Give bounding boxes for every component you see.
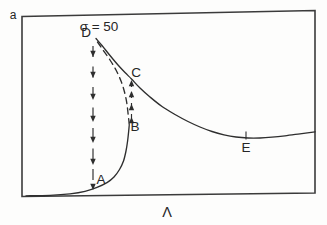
down-arrowhead-icon xyxy=(90,116,95,122)
point-label-b: B xyxy=(130,119,139,134)
down-arrowhead-icon xyxy=(90,72,95,78)
jump-arrow-b-to-c xyxy=(129,80,134,123)
jump-arrow-d-to-a xyxy=(90,46,95,190)
figure-container: a Λ σ = 50 A B C D E xyxy=(0,0,327,225)
down-arrowhead-icon xyxy=(90,51,95,57)
point-label-d: D xyxy=(81,25,91,40)
y-axis-label: a xyxy=(10,8,17,22)
down-arrowhead-icon xyxy=(90,137,95,143)
down-arrowhead-icon xyxy=(90,94,95,100)
curve-lower-stable-branch xyxy=(26,126,129,196)
bifurcation-plot: a Λ σ = 50 A B C D E xyxy=(0,0,327,225)
point-label-e: E xyxy=(241,140,250,155)
curve-unstable-branch xyxy=(98,42,130,125)
point-label-a: A xyxy=(96,172,105,187)
point-label-c: C xyxy=(131,65,141,80)
x-axis-label: Λ xyxy=(162,204,172,220)
down-arrowhead-icon xyxy=(90,159,95,165)
up-arrowhead-icon xyxy=(129,91,134,97)
plot-frame xyxy=(22,11,315,197)
up-arrowhead-icon xyxy=(129,104,134,110)
